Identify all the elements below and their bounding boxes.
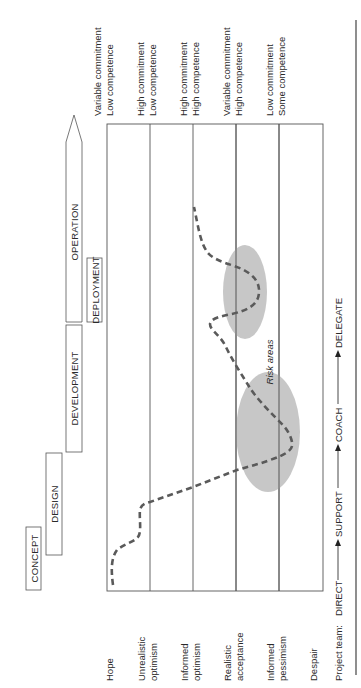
stage-support: SUPPORT (333, 491, 344, 537)
phase-label: CONCEPT (29, 535, 40, 583)
team-state-label: High commitment (178, 42, 189, 116)
team-state-label: High competence (233, 42, 244, 116)
phase-development: DEVELOPMENT (66, 325, 82, 452)
emotion-label: Informed (179, 644, 190, 682)
project-team-row: Project team: DIRECT SUPPORT COACH DELEG… (333, 298, 344, 681)
emotion-label: Realistic (222, 645, 233, 681)
arrow-icon (335, 350, 341, 357)
emotion-label: Informed (265, 644, 276, 682)
team-state-label: Low competence (104, 44, 115, 116)
emotion-label: pessimism (277, 636, 288, 681)
team-state-label: Low commitment (264, 44, 275, 116)
phase-operation-arrow: OPERATION (66, 115, 82, 322)
risk-area-minor (223, 245, 267, 339)
phase-concept: CONCEPT (26, 527, 41, 590)
arrow-icon (335, 539, 341, 546)
phase-label: DESIGN (49, 485, 60, 523)
team-state-label: Variable commitment (92, 27, 103, 116)
phase-deployment: DEPLOYMENT (87, 256, 102, 323)
team-state-labels: Variable commitment Low competence High … (92, 27, 287, 116)
stage-delegate: DELEGATE (333, 298, 344, 348)
emotional-state-labels: Hope Unrealistic optimism Informed optim… (104, 632, 319, 681)
arrow-icon (335, 444, 341, 451)
emotion-label: acceptance (234, 632, 245, 681)
emotion-label: Despair (308, 648, 319, 681)
phase-label: DEPLOYMENT (90, 256, 101, 323)
team-state-label: Variable commitment (221, 27, 232, 116)
emotion-label: optimism (191, 643, 202, 681)
stage-direct: DIRECT (333, 580, 344, 616)
phase-design: DESIGN (46, 453, 62, 555)
risk-areas-label: Risk areas (264, 339, 275, 384)
change-cycle-diagram: CONCEPT DESIGN DEVELOPMENT DEPLOYMENT OP… (0, 0, 361, 688)
risk-area-major (236, 372, 300, 492)
team-state-label: Low competence (147, 44, 158, 116)
stage-coach: COACH (333, 408, 344, 442)
risk-areas: Risk areas (223, 245, 300, 492)
team-state-label: High commitment (135, 42, 146, 116)
emotion-grid (107, 124, 323, 591)
team-state-label: Some competence (276, 37, 287, 116)
phase-label: OPERATION (69, 203, 80, 260)
emotion-label: Hope (104, 658, 115, 681)
emotion-label: optimism (148, 643, 159, 681)
project-team-label: Project team: (333, 625, 344, 681)
emotion-label: Unrealistic (136, 636, 147, 681)
team-state-label: High competence (190, 42, 201, 116)
phase-label: DEVELOPMENT (69, 352, 80, 426)
